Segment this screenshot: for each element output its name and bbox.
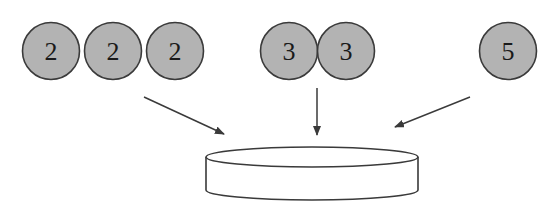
group-threes: 33	[261, 23, 375, 80]
number-circle: 2	[23, 23, 80, 80]
number-circle: 2	[147, 23, 204, 80]
arrow	[144, 97, 224, 134]
number-circles: 222335	[23, 23, 537, 80]
circle-label: 2	[45, 37, 58, 66]
number-circle: 5	[480, 23, 537, 80]
arrows	[144, 88, 470, 135]
circle-label: 2	[169, 37, 182, 66]
group-twos: 222	[23, 23, 204, 80]
number-circle: 2	[85, 23, 142, 80]
container-cylinder	[206, 147, 418, 200]
cylinder-top	[206, 147, 418, 167]
circle-label: 3	[340, 37, 353, 66]
grouping-diagram: 222335	[0, 0, 557, 215]
circle-label: 2	[107, 37, 120, 66]
circle-label: 5	[502, 37, 515, 66]
group-fives: 5	[480, 23, 537, 80]
number-circle: 3	[318, 23, 375, 80]
number-circle: 3	[261, 23, 318, 80]
circle-label: 3	[283, 37, 296, 66]
arrow	[395, 97, 470, 127]
